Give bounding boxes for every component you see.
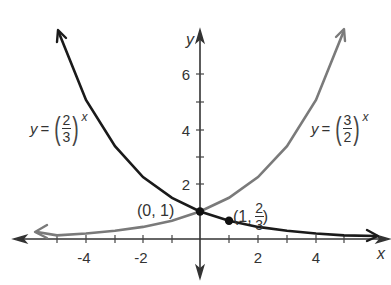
- exponent: x: [82, 110, 88, 124]
- point-label-close: ): [263, 208, 268, 226]
- eq-y: y: [30, 120, 38, 137]
- denominator: 2: [344, 130, 352, 144]
- y-tick-label: 6: [170, 67, 190, 82]
- point-label-0-1: (0, 1): [137, 203, 174, 219]
- point-label-open: (1,: [233, 208, 252, 226]
- y-axis: [197, 30, 204, 278]
- fraction: 2 3: [62, 113, 71, 144]
- point-1-two-thirds: [225, 217, 233, 225]
- numerator: 2: [63, 113, 71, 127]
- x-axis: [14, 236, 389, 243]
- x-tick-label: -4: [77, 250, 90, 265]
- equation-two-thirds: y = ( 2 3 ) x: [30, 112, 88, 144]
- denominator: 3: [63, 130, 71, 144]
- equation-three-halves: y = ( 3 2 ) x: [311, 112, 369, 144]
- left-paren: (: [54, 112, 60, 144]
- y-tick-label: 4: [170, 123, 190, 138]
- right-paren: ): [353, 112, 359, 144]
- numerator: 3: [344, 113, 352, 127]
- x-axis-label: x: [377, 246, 385, 262]
- right-paren: ): [72, 112, 78, 144]
- y-axis-label: y: [186, 32, 194, 48]
- x-tick-label: 2: [254, 250, 262, 265]
- y-tick-label: 2: [170, 177, 190, 192]
- exponent: x: [363, 110, 369, 124]
- eq-equals: =: [322, 120, 331, 137]
- point-0-1: [196, 207, 204, 215]
- point-label-1-two-thirds: (1, 2 3 ): [233, 201, 268, 232]
- fraction: 3 2: [343, 113, 352, 144]
- x-tick-label: 4: [312, 250, 320, 265]
- eq-equals: =: [41, 120, 50, 137]
- x-tick-label: -2: [134, 250, 147, 265]
- eq-y: y: [311, 120, 319, 137]
- left-paren: (: [335, 112, 341, 144]
